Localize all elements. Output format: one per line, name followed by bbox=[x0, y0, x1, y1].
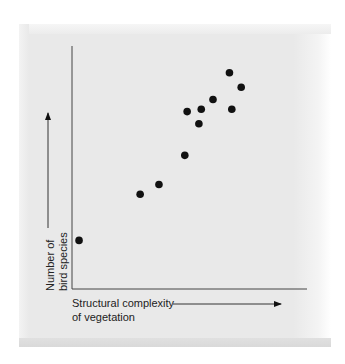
data-point bbox=[155, 181, 163, 189]
data-point bbox=[237, 84, 245, 92]
data-point bbox=[195, 120, 203, 128]
data-point bbox=[136, 190, 144, 198]
data-point bbox=[75, 237, 83, 245]
x-axis-label-line2: of vegetation bbox=[72, 310, 174, 324]
y-axis-label: Number of bird species bbox=[44, 232, 70, 291]
data-point bbox=[183, 108, 191, 116]
data-point bbox=[197, 105, 205, 113]
data-points bbox=[75, 69, 245, 244]
x-axis-label-line1: Structural complexity bbox=[72, 296, 174, 310]
y-axis-label-line2: bird species bbox=[57, 232, 70, 291]
data-point bbox=[209, 96, 217, 104]
x-axis-label: Structural complexity of vegetation bbox=[72, 296, 174, 324]
data-point bbox=[228, 105, 236, 113]
data-point bbox=[181, 152, 189, 160]
data-point bbox=[226, 69, 234, 77]
y-axis-label-line1: Number of bbox=[44, 232, 57, 291]
